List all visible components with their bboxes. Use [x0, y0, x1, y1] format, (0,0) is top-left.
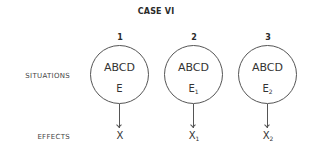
situation-variable: E1 [165, 83, 222, 95]
variable-subscript: 1 [195, 88, 199, 95]
situation-circle: ABCD E [90, 45, 149, 104]
effect-label: X [88, 130, 152, 142]
effect-letter: X [189, 130, 196, 141]
situation-factors: ABCD [91, 61, 148, 74]
case-number: 1 [88, 33, 152, 42]
arrow-down-icon [116, 122, 122, 128]
case-column-1: 1 ABCD E X [88, 0, 152, 156]
effect-letter: X [117, 130, 124, 141]
effect-subscript: 1 [196, 135, 200, 142]
situations-label: SITUATIONS [0, 72, 70, 80]
case-number: 2 [162, 33, 226, 42]
effect-label: X2 [236, 130, 300, 142]
variable-subscript: 2 [269, 88, 273, 95]
effect-label: X1 [162, 130, 226, 142]
arrow-down-icon [264, 122, 270, 128]
effect-letter: X [263, 130, 270, 141]
situation-factors: ABCD [239, 61, 296, 74]
situation-circle: ABCD E2 [238, 45, 297, 104]
arrow-down-icon [190, 122, 196, 128]
effect-subscript: 2 [270, 135, 274, 142]
case-number: 3 [236, 33, 300, 42]
case-column-3: 3 ABCD E2 X2 [236, 0, 300, 156]
situation-variable: E [91, 83, 148, 95]
situation-variable: E2 [239, 83, 296, 95]
situation-circle: ABCD E1 [164, 45, 223, 104]
case-column-2: 2 ABCD E1 X1 [162, 0, 226, 156]
effects-label: EFFECTS [0, 133, 70, 141]
variable-letter: E [116, 83, 122, 94]
situation-factors: ABCD [165, 61, 222, 74]
